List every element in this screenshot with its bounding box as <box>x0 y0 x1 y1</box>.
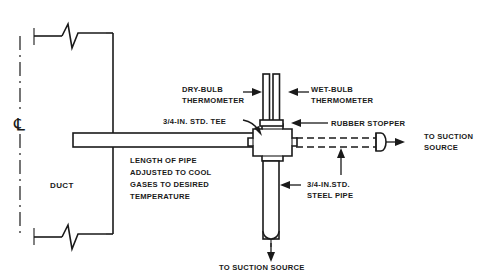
label-length-note-line4: TEMPERATURE <box>130 192 190 201</box>
steel-pipe <box>263 161 279 247</box>
label-wet-bulb-line1: WET-BULB <box>311 85 353 94</box>
steel-pipe-leader <box>280 181 301 189</box>
label-length-note-line2: ADJUSTED TO COOL <box>130 168 212 177</box>
label-steel-pipe-line1: 3/4-IN.STD. <box>307 180 350 189</box>
wet-bulb-leader <box>288 88 309 96</box>
wet-bulb-thermometer <box>273 74 280 124</box>
dry-bulb-thermometer <box>263 74 270 124</box>
horizontal-sample-pipe <box>73 133 255 147</box>
suction-outlet-bottom-arrow <box>267 243 275 262</box>
rubber-stopper-leader <box>291 119 328 127</box>
diagram-canvas: ℄ <box>0 0 488 280</box>
svg-text:℄: ℄ <box>13 115 25 134</box>
technical-diagram: ℄ <box>0 0 488 280</box>
label-length-note-line3: GASES TO DESIRED <box>130 180 209 189</box>
suction-hose-leader <box>337 148 345 175</box>
label-to-suction-right-line2: SOURCE <box>424 143 458 152</box>
label-dry-bulb-line1: DRY-BULB <box>182 85 223 94</box>
suction-hose-right <box>296 133 405 151</box>
label-to-suction-bottom: TO SUCTION SOURCE <box>219 263 305 272</box>
label-steel-pipe-line2: STEEL PIPE <box>307 191 353 200</box>
label-duct: DUCT <box>50 181 74 190</box>
duct-bottom-wall <box>34 225 113 249</box>
duct-top-wall <box>34 24 113 48</box>
dry-bulb-leader <box>243 88 262 96</box>
rubber-stopper <box>260 120 283 126</box>
label-rubber-stopper: RUBBER STOPPER <box>331 119 406 128</box>
label-dry-bulb-line2: THERMOMETER <box>182 96 244 105</box>
centerline-symbol: ℄ <box>13 115 25 134</box>
std-tee <box>248 124 297 161</box>
label-std-tee: 3/4-IN. STD. TEE <box>163 117 226 126</box>
label-length-note-line1: LENGTH OF PIPE <box>130 156 197 165</box>
label-wet-bulb-line2: THERMOMETER <box>311 96 373 105</box>
label-to-suction-right-line1: TO SUCTION <box>424 132 473 141</box>
